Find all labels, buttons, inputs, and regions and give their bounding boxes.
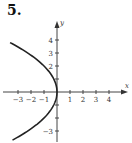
x-tick-label: 3 [94,96,98,104]
x-tick-label: 4 [107,96,112,104]
x-tick-label: −3 [13,96,23,104]
y-tick-label: 4 [49,37,54,45]
y-tick-label: 2 [49,63,53,71]
y-tick-label: 3 [49,50,53,58]
x-axis-label: x [125,82,129,90]
x-tick-label: −2 [26,96,36,104]
x-axis-arrow [121,90,128,95]
x-tick-label: 2 [81,96,85,104]
y-axis-label: y [59,19,65,27]
x-tick-label: 1 [68,96,72,104]
x-tick-label: −1 [39,96,49,104]
chart: xy−3−2−11234432−3 [0,0,132,143]
y-tick-label: −3 [43,128,53,136]
y-axis-arrow [55,21,60,28]
